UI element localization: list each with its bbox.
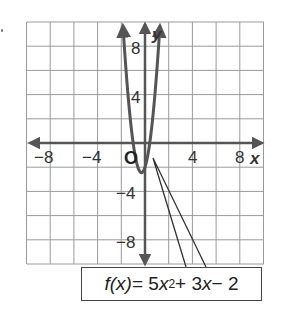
x-tick-label: 4	[188, 148, 197, 167]
y-tick-label: −8	[116, 233, 135, 252]
y-tick-label: −4	[116, 184, 135, 203]
x-tick-label: 8	[235, 148, 244, 167]
function-label-box: f(x) = 5 x 2 + 3 x − 2	[81, 267, 262, 301]
x-tick-label: −4	[82, 148, 101, 167]
x-tick-label: −8	[34, 148, 53, 167]
origin-label: O	[124, 148, 138, 168]
formula-variable: x	[202, 273, 212, 295]
y-tick-label: 8	[131, 39, 140, 58]
x-axis-label: x	[249, 149, 261, 168]
callout-pointer	[153, 158, 206, 267]
formula-part: + 3	[175, 273, 202, 295]
function-name: f(x)	[105, 273, 132, 295]
formula-part: = 5	[132, 273, 159, 295]
formula-part: − 2	[212, 273, 239, 295]
y-axis-label: y	[151, 25, 163, 44]
y-tick-label: 4	[131, 88, 140, 107]
formula-variable: x	[159, 273, 169, 295]
